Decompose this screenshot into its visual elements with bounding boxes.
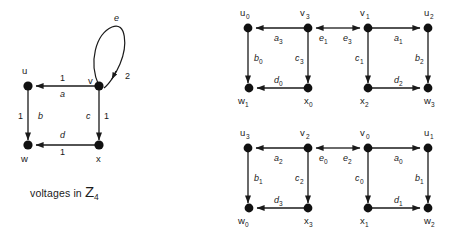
svg-text:0: 0 [399,158,403,165]
edge-label-a1: a 1 [394,33,403,45]
svg-text:v: v [300,7,305,18]
svg-text:3: 3 [300,58,304,65]
svg-text:1: 1 [399,38,403,45]
vertex-w1 [245,84,254,93]
caption-group-subscript: 4 [94,192,99,202]
svg-text:1: 1 [245,101,249,108]
derived-graph-top-group: u 0 v 3 v 1 u 2 w 1 x 0 [237,7,435,108]
svg-text:2: 2 [365,101,369,108]
svg-text:u: u [424,127,429,138]
vertex-label-u0: u 0 [240,7,250,20]
svg-text:1: 1 [360,58,364,65]
svg-text:0: 0 [246,13,250,20]
voltage-a: 1 [60,73,65,83]
edge-label-d: d [60,130,66,140]
edge-label-e1: e 1 [319,33,328,45]
vertex-x0 [304,84,313,93]
edge-e-loop [94,26,125,88]
vertex-x1 [364,204,373,213]
svg-text:w: w [237,95,245,106]
svg-text:3: 3 [348,38,352,45]
vertex-v3 [304,24,313,33]
svg-text:u: u [240,127,245,138]
vertex-label-u1: u 1 [424,127,434,140]
svg-text:1: 1 [366,13,370,20]
svg-text:1: 1 [365,221,369,228]
vertex-u0 [244,24,253,33]
edge-label-a: a [60,89,65,99]
figure-canvas: u v w x a b c d e 1 1 1 1 2 [0,0,450,234]
edge-label-c1: c 1 [355,53,364,65]
svg-text:v: v [360,7,365,18]
svg-text:3: 3 [431,101,435,108]
svg-text:2: 2 [306,133,310,140]
vertex-u3 [244,144,253,153]
voltage-c: 1 [104,111,109,121]
edge-label-a2: a 2 [274,153,283,165]
derived-graph-bottom-group: u 3 v 2 v 0 u 1 w 0 x 3 [237,127,435,228]
base-voltage-graph: u v w x a b c d e 1 1 1 1 2 [18,13,130,164]
edge-label-b2: b 2 [415,53,424,65]
svg-text:u: u [424,7,429,18]
vertex-v0 [364,144,373,153]
vertex-label-u3: u 3 [240,127,250,140]
caption-text: voltages in [30,187,85,199]
edge-label-a3: a 3 [274,33,283,45]
svg-text:3: 3 [279,38,283,45]
edge-label-c0: c 0 [355,173,364,185]
vertex-w3 [424,84,433,93]
svg-text:w: w [423,95,431,106]
edge-label-c2: c 2 [295,173,304,185]
svg-text:3: 3 [309,221,313,228]
svg-text:3: 3 [306,13,310,20]
svg-text:1: 1 [399,200,403,207]
svg-text:0: 0 [309,101,313,108]
svg-text:1: 1 [324,38,328,45]
svg-text:v: v [360,127,365,138]
voltage-e: 2 [125,71,130,81]
vertex-x [94,140,103,149]
svg-text:0: 0 [259,58,263,65]
voltage-d: 1 [60,147,65,157]
svg-text:w: w [423,215,431,226]
vertex-label-w3: w 3 [423,95,435,108]
svg-text:1: 1 [420,178,424,185]
vertex-label-u2: u 2 [424,7,434,20]
vertex-label-v3: v 3 [300,7,310,20]
figure-caption: voltages in Z4 [30,183,99,202]
svg-text:w: w [237,215,245,226]
vertex-label-x1: x 1 [360,215,369,228]
vertex-label-w1: w 1 [237,95,249,108]
edge-label-d1: d 1 [394,195,403,207]
edge-label-c3: c 3 [295,53,304,65]
caption-group-symbol: Z [85,183,94,200]
vertex-label-u: u [22,65,27,76]
vertex-w0 [245,204,254,213]
edge-label-e3: e 3 [343,33,352,45]
svg-text:0: 0 [279,80,283,87]
svg-text:0: 0 [324,158,328,165]
vertex-x3 [304,204,313,213]
vertex-label-x0: x 0 [304,95,313,108]
vertex-x2 [364,84,373,93]
vertex-label-w2: w 2 [423,215,435,228]
svg-text:2: 2 [348,158,352,165]
vertex-label-x3: x 3 [304,215,313,228]
edge-label-d3: d 3 [274,195,283,207]
edge-label-b: b [38,111,43,121]
svg-text:2: 2 [300,178,304,185]
vertex-w2 [424,204,433,213]
vertex-w [23,140,32,149]
svg-text:1: 1 [259,178,263,185]
edge-label-a0: a 0 [394,153,403,165]
vertex-label-w0: w 0 [237,215,249,228]
svg-text:2: 2 [430,13,434,20]
vertex-label-w: w [20,153,28,164]
edge-label-e2: e 2 [343,153,352,165]
svg-text:u: u [240,7,245,18]
vertex-u2 [424,24,433,33]
vertex-label-x2: x 2 [360,95,369,108]
svg-text:1: 1 [430,133,434,140]
edge-label-d0: d 0 [274,75,283,87]
edge-label-d2: d 2 [394,75,403,87]
